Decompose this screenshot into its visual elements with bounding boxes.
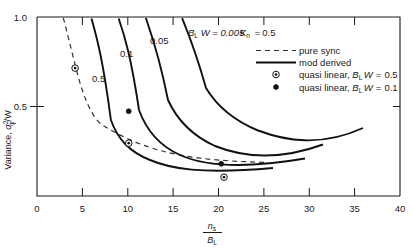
curve-label-0.005: BL W = 0.005 [188, 27, 245, 39]
curve-label-0.5: 0.5 [92, 73, 105, 84]
x-ticklabel-30: 30 [304, 203, 315, 214]
legend-label-mod-derived: mod derived [299, 57, 351, 68]
curve-label-0.1: 0.1 [120, 48, 133, 59]
y-axis-title-prefix: Variance, [3, 130, 13, 170]
legend-label-pure-sync: pure sync [299, 45, 340, 56]
curve-bl-w-0.1 [119, 19, 305, 166]
x-ticklabel-20: 20 [213, 203, 224, 214]
y-axis-title-suffix: /W [3, 110, 13, 122]
x-ticklabel-35: 35 [349, 203, 360, 214]
curve-bl-w-0.05 [146, 18, 323, 156]
marker-quasi-linear-0.5-a [72, 65, 79, 72]
y-tick-labels: 0.5 1.0 [14, 12, 27, 113]
data-curves [63, 18, 363, 171]
x-tick-labels: 0 5 10 15 20 25 30 35 40 [34, 203, 405, 214]
legend-label-quasi-linear-0.5: quasi linear, BLW=0.5 [299, 69, 398, 81]
x-ticklabel-40: 40 [395, 203, 406, 214]
legend-marker-quasi-linear-0.5 [273, 71, 280, 78]
x-axis-ticks [82, 17, 354, 196]
x-axis-title-denominator: BL [207, 235, 217, 246]
annotation-kn: Kn =0.5 [240, 27, 275, 39]
chart-legend: pure sync mod derived quasi linear, BLW=… [256, 45, 398, 94]
axis-left-bottom [37, 17, 400, 196]
x-ticklabel-5: 5 [80, 203, 85, 214]
curve-labels: 0.5 0.1 0.05 BL W = 0.005 [92, 27, 245, 84]
chart-svg: 0 5 10 15 20 25 30 35 40 0.5 1.0 Varianc… [0, 0, 412, 250]
svg-text:Variance, σ2φ/W: Variance, σ2φ/W [2, 110, 16, 170]
plot-frame [37, 17, 400, 196]
marker-quasi-linear-0.5-b [125, 140, 132, 147]
x-ticklabel-25: 25 [259, 203, 270, 214]
legend-label-quasi-linear-0.1: quasi linear, BLW=0.1 [299, 82, 398, 94]
y-ticklabel-1.0: 1.0 [14, 12, 27, 23]
axis-top-right [37, 17, 400, 196]
marker-quasi-linear-0.5-c [221, 174, 228, 181]
legend-marker-quasi-linear-0.1 [274, 85, 279, 90]
x-ticklabel-10: 10 [123, 203, 134, 214]
x-axis-title: ns BL [203, 221, 222, 246]
y-axis-title: Variance, σ2φ/W [2, 110, 16, 170]
chart-figure: 0 5 10 15 20 25 30 35 40 0.5 1.0 Varianc… [0, 0, 412, 250]
y-ticklabel-0.5: 0.5 [14, 101, 27, 112]
x-axis-title-numerator: ns [208, 221, 217, 232]
marker-quasi-linear-0.1-b [219, 161, 224, 166]
marker-quasi-linear-0.1-a [126, 109, 131, 114]
x-ticklabel-15: 15 [168, 203, 179, 214]
curve-label-0.05: 0.05 [150, 35, 169, 46]
x-ticklabel-0: 0 [34, 203, 39, 214]
curve-bl-w-0.5 [92, 19, 274, 171]
annotation-kn-text: Kn =0.5 [240, 27, 275, 39]
